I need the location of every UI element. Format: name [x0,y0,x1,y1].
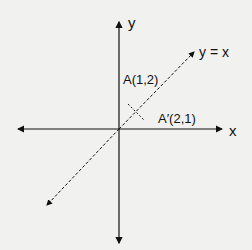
reflection-diagram [0,0,252,250]
x-axis-label: x [229,123,237,138]
point-a-label: A(1,2) [123,73,158,86]
line-y-equals-x-negative [47,129,119,205]
point-a-prime-label: A′(2,1) [158,112,196,125]
line-label: y = x [199,45,229,59]
y-axis-label: y [128,15,136,30]
